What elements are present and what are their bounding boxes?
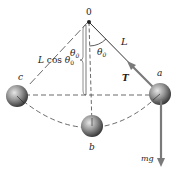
- tension-vector: [131, 65, 153, 87]
- angle-arc: [90, 39, 106, 46]
- vertical-reference-line: [89, 22, 92, 126]
- length-label: L: [120, 36, 128, 47]
- pendulum-diagram: 0 L L cos θ0 θ0 θ0 T a b c mg: [0, 0, 180, 173]
- tension-label: T: [122, 73, 130, 83]
- point-b-label: b: [89, 142, 95, 152]
- angle-left-label: θ0: [70, 48, 79, 59]
- point-c-label: c: [18, 72, 23, 82]
- pivot-point: [87, 20, 91, 24]
- pivot-label: 0: [86, 7, 92, 17]
- weight-arrowhead-icon: [157, 158, 165, 167]
- l-cos-bracket: [80, 25, 86, 95]
- angle-label: θ0: [97, 47, 106, 58]
- l-cos-label: L cos θ0: [37, 55, 74, 66]
- point-a-label: a: [157, 68, 162, 78]
- weight-label: mg: [141, 154, 154, 163]
